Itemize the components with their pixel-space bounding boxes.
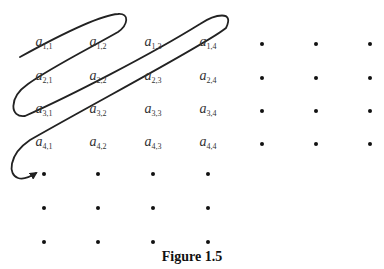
ellipsis-dot xyxy=(206,206,210,210)
matrix-entry-a23: a2,3 xyxy=(145,68,162,85)
matrix-entry-a33: a3,3 xyxy=(145,101,162,118)
ellipsis-dot xyxy=(42,206,46,210)
entry-base: a xyxy=(90,101,97,116)
ellipsis-dot xyxy=(260,142,264,146)
entry-base: a xyxy=(36,134,43,149)
entry-subscript: 4,3 xyxy=(152,142,162,151)
ellipsis-dot xyxy=(368,142,372,146)
ellipsis-dot xyxy=(151,240,155,244)
ellipsis-dot xyxy=(368,109,372,113)
ellipsis-dot xyxy=(260,76,264,80)
entry-subscript: 3,2 xyxy=(97,109,107,118)
figure-caption: Figure 1.5 xyxy=(162,249,222,265)
figure-diagram: a1,1a1,2a1,3a1,4a2,1a2,2a2,3a2,4a3,1a3,2… xyxy=(0,0,384,269)
entry-base: a xyxy=(90,134,97,149)
matrix-entry-a43: a4,3 xyxy=(145,134,162,151)
entry-base: a xyxy=(200,134,207,149)
ellipsis-dot xyxy=(206,240,210,244)
entry-subscript: 2,3 xyxy=(152,76,162,85)
entry-base: a xyxy=(145,34,152,49)
entry-subscript: 3,3 xyxy=(152,109,162,118)
entry-base: a xyxy=(36,34,43,49)
matrix-entry-a22: a2,2 xyxy=(90,68,107,85)
entry-subscript: 1,2 xyxy=(97,42,107,51)
ellipsis-dot xyxy=(314,142,318,146)
entry-subscript: 2,1 xyxy=(43,76,53,85)
ellipsis-dot xyxy=(96,172,100,176)
entry-base: a xyxy=(145,134,152,149)
ellipsis-dot xyxy=(151,172,155,176)
ellipsis-dot xyxy=(96,240,100,244)
entry-subscript: 1,1 xyxy=(43,42,53,51)
entry-subscript: 4,4 xyxy=(207,142,217,151)
matrix-entry-a12: a1,2 xyxy=(90,34,107,51)
ellipsis-dot xyxy=(206,172,210,176)
matrix-entry-a13: a1,3 xyxy=(145,34,162,51)
matrix-entry-a24: a2,4 xyxy=(200,68,217,85)
ellipsis-dot xyxy=(314,109,318,113)
entry-base: a xyxy=(90,34,97,49)
entry-subscript: 1,4 xyxy=(207,42,217,51)
ellipsis-dot xyxy=(314,42,318,46)
entry-subscript: 1,3 xyxy=(152,42,162,51)
entry-subscript: 3,4 xyxy=(207,109,217,118)
matrix-entry-a14: a1,4 xyxy=(200,34,217,51)
entry-base: a xyxy=(200,34,207,49)
ellipsis-dot xyxy=(260,42,264,46)
ellipsis-dot xyxy=(314,76,318,80)
entry-subscript: 2,2 xyxy=(97,76,107,85)
matrix-entry-a42: a4,2 xyxy=(90,134,107,151)
ellipsis-dot xyxy=(96,206,100,210)
entry-base: a xyxy=(36,101,43,116)
ellipsis-dot xyxy=(368,42,372,46)
entry-base: a xyxy=(145,101,152,116)
matrix-entry-a32: a3,2 xyxy=(90,101,107,118)
matrix-entry-a44: a4,4 xyxy=(200,134,217,151)
ellipsis-dot xyxy=(368,76,372,80)
enumeration-path xyxy=(0,0,384,269)
ellipsis-dot xyxy=(151,206,155,210)
entry-base: a xyxy=(145,68,152,83)
entry-base: a xyxy=(36,68,43,83)
matrix-entry-a31: a3,1 xyxy=(36,101,53,118)
matrix-entry-a21: a2,1 xyxy=(36,68,53,85)
entry-base: a xyxy=(200,101,207,116)
entry-subscript: 4,2 xyxy=(97,142,107,151)
ellipsis-dot xyxy=(42,240,46,244)
matrix-entry-a41: a4,1 xyxy=(36,134,53,151)
matrix-entry-a34: a3,4 xyxy=(200,101,217,118)
entry-subscript: 2,4 xyxy=(207,76,217,85)
entry-base: a xyxy=(200,68,207,83)
entry-subscript: 3,1 xyxy=(43,109,53,118)
entry-base: a xyxy=(90,68,97,83)
matrix-entry-a11: a1,1 xyxy=(36,34,53,51)
ellipsis-dot xyxy=(260,109,264,113)
entry-subscript: 4,1 xyxy=(43,142,53,151)
ellipsis-dot xyxy=(42,172,46,176)
